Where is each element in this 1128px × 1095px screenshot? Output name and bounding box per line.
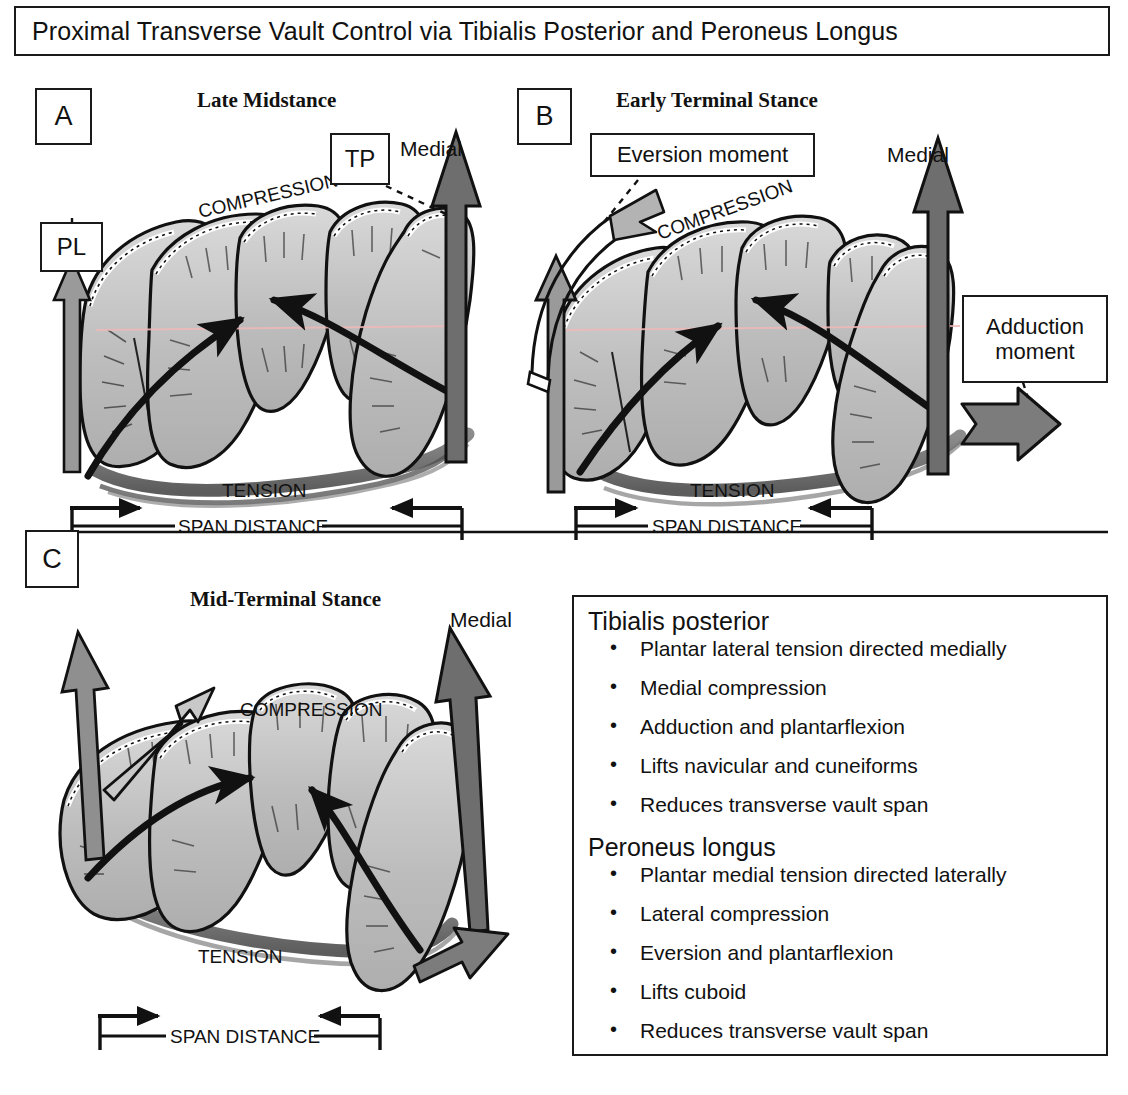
- list-item-text: Plantar medial tension directed laterall…: [640, 863, 1007, 886]
- panel-b-label: B: [517, 88, 572, 145]
- list-item-text: Adduction and plantarflexion: [640, 715, 905, 738]
- panel-a-stance-title: Late Midstance: [197, 88, 336, 113]
- tp-label: TP: [345, 145, 376, 173]
- list-item-text: Lateral compression: [640, 902, 829, 925]
- panel-a-span-label: SPAN DISTANCE: [178, 516, 328, 537]
- panel-c-compression-label: COMPRESSION: [240, 699, 383, 720]
- panel-b-eversion-box: Eversion moment: [590, 133, 815, 177]
- figure-title-box: Proximal Transverse Vault Control via Ti…: [14, 6, 1110, 56]
- bullet-icon: •: [610, 754, 617, 774]
- muscle-actions-legend: Tibialis posterior •Plantar lateral tens…: [572, 595, 1108, 1056]
- list-item-text: Plantar lateral tension directed mediall…: [640, 637, 1007, 660]
- panel-a-artwork: [54, 132, 480, 540]
- panel-b-adduction-box: Adduction moment: [962, 295, 1108, 383]
- list-item: •Reduces transverse vault span: [640, 1020, 1100, 1041]
- bullet-icon: •: [610, 715, 617, 735]
- panel-b-letter: B: [535, 101, 553, 132]
- list-item: •Reduces transverse vault span: [640, 794, 1100, 815]
- panel-b-span-label: SPAN DISTANCE: [652, 516, 802, 537]
- adduction-moment-line1: Adduction: [986, 314, 1084, 339]
- list-item-text: Medial compression: [640, 676, 827, 699]
- panel-a-medial-label: Medial: [400, 137, 462, 161]
- panel-c-letter: C: [42, 544, 62, 575]
- list-item: •Medial compression: [640, 677, 1100, 698]
- legend-tp-list: •Plantar lateral tension directed medial…: [588, 638, 1100, 815]
- bullet-icon: •: [610, 676, 617, 696]
- panel-a-letter: A: [54, 101, 72, 132]
- bullet-icon: •: [610, 1019, 617, 1039]
- panel-a-tension-label: TENSION: [222, 480, 306, 501]
- list-item-text: Reduces transverse vault span: [640, 1019, 928, 1042]
- bullet-icon: •: [610, 793, 617, 813]
- list-item: •Lateral compression: [640, 903, 1100, 924]
- list-item: •Plantar lateral tension directed medial…: [640, 638, 1100, 659]
- list-item: •Eversion and plantarflexion: [640, 942, 1100, 963]
- bullet-icon: •: [610, 902, 617, 922]
- panel-a-label: A: [35, 88, 92, 145]
- panel-a-compression-label: COMPRESSION: [196, 169, 340, 222]
- panel-c-label: C: [25, 530, 79, 588]
- list-item-text: Lifts cuboid: [640, 980, 746, 1003]
- panel-b-stance-title: Early Terminal Stance: [616, 88, 818, 113]
- bullet-icon: •: [610, 863, 617, 883]
- list-item: •Lifts cuboid: [640, 981, 1100, 1002]
- panel-c-tension-label: TENSION: [198, 946, 282, 967]
- panel-b-tension-label: TENSION: [690, 480, 774, 501]
- panel-c-medial-label: Medial: [450, 608, 512, 632]
- diagram-page: Proximal Transverse Vault Control via Ti…: [0, 0, 1128, 1095]
- list-item: •Adduction and plantarflexion: [640, 716, 1100, 737]
- panel-a-tp-box: TP: [330, 133, 390, 185]
- bullet-icon: •: [610, 941, 617, 961]
- figure-title: Proximal Transverse Vault Control via Ti…: [32, 17, 898, 46]
- adduction-moment-line2: moment: [995, 339, 1074, 364]
- panel-b-compression-label: COMPRESSION: [654, 175, 795, 243]
- panel-c-stance-title: Mid-Terminal Stance: [190, 587, 381, 612]
- panel-a-pl-box: PL: [40, 222, 103, 272]
- legend-pl-heading: Peroneus longus: [588, 833, 1100, 862]
- list-item: •Lifts navicular and cuneiforms: [640, 755, 1100, 776]
- eversion-moment-label: Eversion moment: [617, 142, 788, 167]
- legend-tp-heading: Tibialis posterior: [588, 607, 1100, 636]
- list-item: •Plantar medial tension directed lateral…: [640, 864, 1100, 885]
- legend-pl-list: •Plantar medial tension directed lateral…: [588, 864, 1100, 1041]
- bullet-icon: •: [610, 980, 617, 1000]
- list-item-text: Eversion and plantarflexion: [640, 941, 893, 964]
- list-item-text: Reduces transverse vault span: [640, 793, 928, 816]
- panel-b-medial-label: Medial: [887, 143, 949, 167]
- panel-c-span-label: SPAN DISTANCE: [170, 1026, 320, 1047]
- bullet-icon: •: [610, 637, 617, 657]
- pl-label: PL: [57, 233, 86, 261]
- list-item-text: Lifts navicular and cuneiforms: [640, 754, 918, 777]
